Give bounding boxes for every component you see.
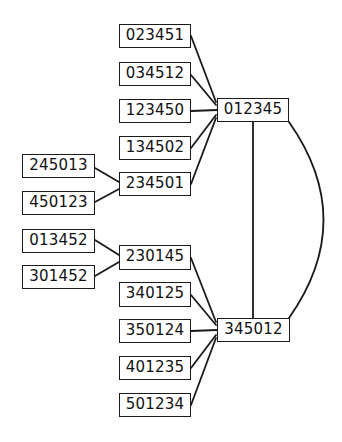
node-034512: 034512 [119, 62, 191, 86]
node-450123: 450123 [22, 191, 95, 215]
node-013452: 013452 [22, 229, 95, 253]
node-345012: 345012 [217, 318, 290, 342]
node-234501: 234501 [119, 172, 191, 196]
node-012345: 012345 [217, 98, 289, 122]
node-230145: 230145 [119, 245, 191, 270]
edge-501234-345012 [191, 338, 216, 405]
node-023451: 023451 [119, 24, 191, 48]
node-301452: 301452 [22, 265, 95, 289]
node-501234: 501234 [119, 393, 191, 417]
edge-123450-012345 [191, 110, 217, 111]
node-401235: 401235 [119, 356, 191, 380]
edge-301452-230145 [95, 262, 119, 276]
permutation-graph: 023451 034512 123450 134502 234501 01234… [0, 0, 342, 442]
edge-134502-012345 [191, 115, 216, 148]
node-350124: 350124 [119, 319, 191, 343]
node-123450: 123450 [119, 99, 191, 123]
edge-013452-230145 [95, 240, 119, 255]
edge-230145-345012 [191, 258, 216, 322]
node-245013: 245013 [22, 154, 95, 178]
node-340125: 340125 [119, 282, 191, 307]
node-134502: 134502 [119, 136, 191, 160]
edge-401235-345012 [191, 335, 216, 368]
edge-012345-345012-curved [289, 122, 324, 318]
edge-234501-012345 [191, 118, 216, 184]
edge-450123-234501 [95, 189, 119, 202]
edge-023451-012345 [191, 36, 216, 102]
edge-245013-234501 [95, 168, 119, 182]
edge-350124-345012 [191, 330, 217, 331]
